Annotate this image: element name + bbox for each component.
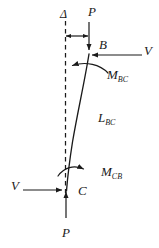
label-axial-load-bottom: P [62, 226, 70, 239]
moment-bc-curved-arrow [73, 64, 109, 73]
diagram-canvas [0, 0, 159, 248]
label-moment-bc: MBC [107, 68, 128, 81]
deformed-column-member [67, 54, 90, 191]
label-moment-cb-base: M [101, 164, 112, 179]
moment-cb-curved-arrow [58, 167, 84, 176]
label-shear-top: V [144, 44, 152, 57]
free-body-diagram: Δ P B V MBC LBC MCB C V P [0, 0, 159, 248]
label-moment-bc-base: M [107, 67, 118, 82]
label-joint-b: B [99, 38, 107, 51]
label-moment-bc-subscript: BC [118, 75, 128, 84]
label-delta: Δ [60, 8, 67, 20]
label-length-bc: LBC [98, 111, 115, 124]
label-moment-cb: MCB [101, 165, 122, 178]
label-shear-bottom: V [11, 179, 19, 192]
label-axial-load-top: P [88, 5, 96, 18]
label-joint-c: C [78, 184, 87, 197]
label-length-bc-subscript: BC [105, 118, 115, 127]
label-moment-cb-subscript: CB [112, 172, 122, 181]
